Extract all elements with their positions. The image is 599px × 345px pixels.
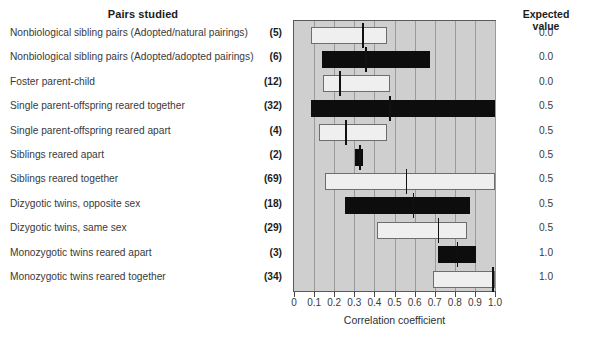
category-label-row: Monozygotic twins reared together(34) [10,271,282,285]
median-marker [345,120,347,145]
range-bar [377,222,466,239]
category-label-text: Single parent-offspring reared apart [10,125,171,136]
category-label-text: Foster parent-child [10,76,95,87]
category-label-text: Dizygotic twins, same sex [10,222,127,233]
range-bar [311,100,495,117]
median-marker [362,23,364,48]
category-label-column: Pairs studied Nonbiological sibling pair… [0,0,286,345]
expected-value: 0.0 [506,27,586,38]
expected-value: 0.5 [506,149,586,160]
gridline [495,21,496,291]
expected-value: 0.5 [506,173,586,184]
expected-value: 1.0 [506,247,586,258]
category-label-row: Siblings reared together(69) [10,173,282,187]
expected-value: 0.5 [506,198,586,209]
pair-count: (12) [264,76,282,87]
median-marker [365,47,367,72]
gridline [314,21,315,291]
pair-count: (2) [270,149,282,160]
category-label-row: Nonbiological sibling pairs (Adopted/ado… [10,51,282,65]
category-label-text: Dizygotic twins, opposite sex [10,198,140,209]
plot-area [293,20,496,292]
chart-figure: Pairs studied Nonbiological sibling pair… [0,0,599,345]
pair-count: (6) [270,51,282,62]
category-label-row: Monozygotic twins reared apart(3) [10,247,282,261]
pair-count: (34) [264,271,282,282]
median-marker [492,267,494,292]
expected-value: 0.5 [506,100,586,111]
expected-value: 0.5 [506,222,586,233]
category-label-row: Dizygotic twins, same sex(29) [10,222,282,236]
category-label-row: Dizygotic twins, opposite sex(18) [10,198,282,212]
category-label-text: Nonbiological sibling pairs (Adopted/nat… [10,27,248,38]
category-label-row: Single parent-offspring reared apart(4) [10,125,282,139]
pairs-studied-heading: Pairs studied [0,8,286,20]
median-marker [359,145,361,170]
range-bar [322,51,430,68]
expected-value: 0.0 [506,76,586,87]
category-label-text: Siblings reared apart [10,149,104,160]
range-bar [325,173,495,190]
range-bar [345,197,470,214]
pair-count: (69) [264,173,282,184]
category-label-text: Nonbiological sibling pairs (Adopted/ado… [10,51,254,62]
category-label-row: Foster parent-child(12) [10,76,282,90]
category-label-text: Siblings reared together [10,173,118,184]
gridline [435,21,436,291]
pair-count: (3) [270,247,282,258]
category-label-row: Nonbiological sibling pairs (Adopted/nat… [10,27,282,41]
expected-value: 0.0 [506,51,586,62]
pair-count: (5) [270,27,282,38]
median-marker [406,169,408,194]
expected-value: 0.5 [506,125,586,136]
range-bar [323,75,390,92]
range-bar [319,124,387,141]
median-marker [457,242,459,267]
pair-count: (4) [270,125,282,136]
median-marker [339,71,341,96]
expected-value: 1.0 [506,271,586,282]
expected-value-heading-line1: Expected [506,8,586,20]
x-axis-title: Correlation coefficient [293,314,496,326]
category-label-row: Siblings reared apart(2) [10,149,282,163]
category-label-text: Monozygotic twins reared apart [10,247,152,258]
range-bar [311,27,387,44]
median-marker [438,218,440,243]
pair-count: (29) [264,222,282,233]
pair-count: (18) [264,198,282,209]
category-label-text: Single parent-offspring reared together [10,100,185,111]
range-bar [433,271,495,288]
median-marker [389,96,391,121]
category-label-text: Monozygotic twins reared together [10,271,166,282]
category-label-row: Single parent-offspring reared together(… [10,100,282,114]
pair-count: (32) [264,100,282,111]
median-marker [413,193,415,218]
expected-value-column: Expected value 0.00.00.00.50.50.50.50.50… [506,0,599,345]
